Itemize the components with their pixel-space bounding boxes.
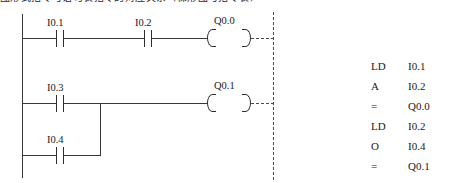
rung1-wire-segment <box>64 38 144 39</box>
instruction-row: LD I0.1 <box>360 56 464 76</box>
plc-ladder-instruction-figure: 图形式指令与语句表指令的对应关系（梯形图与指令表） I0.1 I0.2 Q0.0 <box>0 0 464 183</box>
rung2-dashed-connector <box>251 103 274 104</box>
coil-arc-right <box>242 94 251 112</box>
contact-label-i0-4: I0.4 <box>47 134 64 146</box>
contact-label-i0-3: I0.3 <box>47 82 64 94</box>
instruction-operand: Q0.1 <box>402 160 464 172</box>
rung3-wire-segment <box>64 155 101 156</box>
contact-bar-left <box>56 95 57 112</box>
rung1-wire-segment <box>22 38 56 39</box>
instruction-opcode: LD <box>360 60 402 72</box>
instruction-opcode: = <box>360 100 402 112</box>
coil-label-q0-1: Q0.1 <box>214 80 235 92</box>
coil-q0-1[interactable] <box>207 94 251 112</box>
branch-left-vertical-wire <box>22 103 23 156</box>
rung2-wire-segment <box>22 103 56 104</box>
instruction-opcode: O <box>360 140 402 152</box>
ladder-diagram: I0.1 I0.2 Q0.0 I0.3 Q0.1 <box>0 0 300 183</box>
rung3-wire-segment <box>22 155 56 156</box>
coil-label-q0-0: Q0.0 <box>214 15 235 27</box>
instruction-operand: I0.2 <box>402 80 464 92</box>
rung2-wire-segment <box>64 103 208 104</box>
instruction-operand: Q0.0 <box>402 100 464 112</box>
instruction-row: LD I0.2 <box>360 116 464 136</box>
instruction-opcode: LD <box>360 120 402 132</box>
instruction-opcode: = <box>360 160 402 172</box>
coil-arc-left <box>207 94 216 112</box>
instruction-row: = Q0.0 <box>360 96 464 116</box>
contact-bar-left <box>56 30 57 47</box>
branch-vertical-wire <box>100 103 101 156</box>
instruction-operand: I0.4 <box>402 140 464 152</box>
rung1-dashed-connector <box>251 38 274 39</box>
instruction-row: A I0.2 <box>360 76 464 96</box>
coil-q0-0[interactable] <box>207 29 251 47</box>
instruction-operand: I0.1 <box>402 60 464 72</box>
instruction-row: = Q0.1 <box>360 156 464 176</box>
contact-bar-left <box>144 30 145 47</box>
coil-arc-left <box>207 29 216 47</box>
instruction-opcode: A <box>360 80 402 92</box>
rung1-wire-segment <box>152 38 208 39</box>
contact-bar-left <box>56 147 57 164</box>
instruction-list: LD I0.1 A I0.2 = Q0.0 LD I0.2 O I0.4 = Q… <box>360 56 464 176</box>
instruction-row: O I0.4 <box>360 136 464 156</box>
instruction-operand: I0.2 <box>402 120 464 132</box>
coil-arc-right <box>242 29 251 47</box>
contact-label-i0-2: I0.2 <box>135 17 152 29</box>
contact-label-i0-1: I0.1 <box>47 17 64 29</box>
